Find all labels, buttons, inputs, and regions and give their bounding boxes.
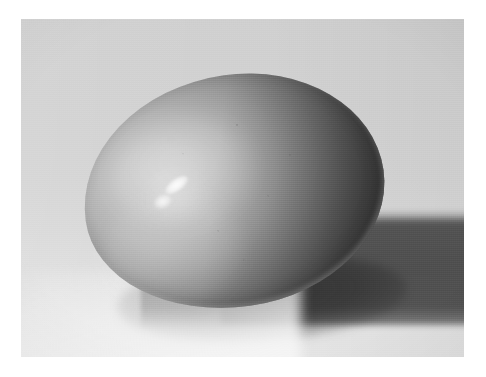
- photo-page: [0, 0, 486, 377]
- photograph: [21, 19, 464, 357]
